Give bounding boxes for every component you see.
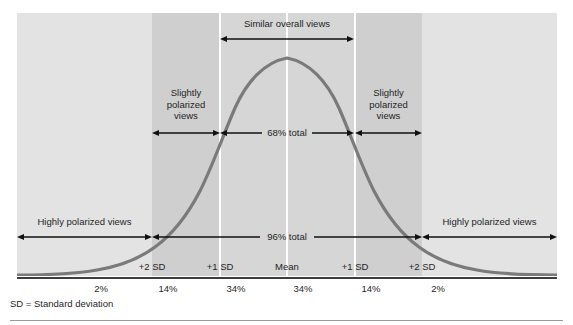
percent-label-4: 34% bbox=[278, 283, 328, 294]
percent-label-3: 34% bbox=[211, 283, 261, 294]
axis-baseline bbox=[17, 277, 557, 279]
label-right-slightly-line-1: Slightly bbox=[373, 87, 404, 98]
arrow-right-highly-polarized bbox=[422, 232, 557, 242]
axis-label-mean: Mean bbox=[257, 261, 317, 272]
axis-label-plus-1sd: +1 SD bbox=[325, 261, 385, 272]
label-left-slightly-line-3: views bbox=[174, 110, 198, 121]
arrow-left-slightly-polarized bbox=[152, 128, 220, 138]
axis-label-plus-2sd: +2 SD bbox=[392, 261, 452, 272]
arrow-right-slightly-polarized bbox=[355, 128, 422, 138]
label-left-slightly-line-1: Slightly bbox=[171, 87, 202, 98]
arrow-left-highly-polarized bbox=[17, 232, 152, 242]
percent-label-6: 2% bbox=[413, 283, 463, 294]
axis-label-minus-2sd: +2 SD bbox=[122, 261, 182, 272]
percent-label-1: 2% bbox=[76, 283, 126, 294]
percent-label-5: 14% bbox=[346, 283, 396, 294]
label-span-96-percent: 96% total bbox=[152, 231, 422, 243]
footnote-sd-definition: SD = Standard deviation bbox=[10, 298, 113, 309]
label-span-68-percent: 68% total bbox=[220, 127, 354, 139]
percent-label-2: 14% bbox=[143, 283, 193, 294]
bottom-divider bbox=[10, 320, 563, 321]
arrow-similar-overall-views bbox=[220, 34, 354, 44]
label-right-slightly-line-3: views bbox=[377, 110, 401, 121]
normal-distribution-figure: Similar overall views Slightly polarized… bbox=[0, 0, 573, 325]
plot-area: Similar overall views Slightly polarized… bbox=[17, 13, 557, 276]
axis-label-minus-1sd: +1 SD bbox=[190, 261, 250, 272]
label-right-slightly-polarized: Slightly polarized views bbox=[355, 87, 422, 122]
label-right-slightly-line-2: polarized bbox=[369, 99, 408, 110]
label-right-highly-polarized: Highly polarized views bbox=[422, 216, 557, 228]
label-left-slightly-polarized: Slightly polarized views bbox=[152, 87, 220, 122]
label-left-slightly-line-2: polarized bbox=[167, 99, 206, 110]
label-similar-overall-views: Similar overall views bbox=[220, 18, 354, 30]
label-left-highly-polarized: Highly polarized views bbox=[17, 216, 152, 228]
